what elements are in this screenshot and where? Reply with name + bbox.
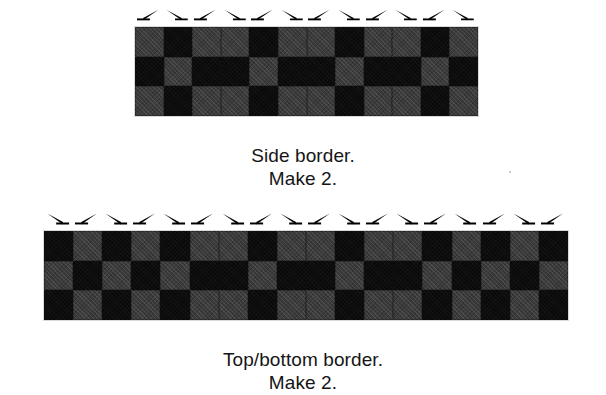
direction-arrow-left: [223, 8, 246, 22]
quilt-cell: [481, 290, 510, 320]
quilt-cell: [307, 86, 336, 116]
direction-arrow-left: [221, 212, 244, 226]
direction-arrow-right: [194, 8, 217, 22]
top-bottom-border-quilt: [43, 230, 569, 321]
quilt-cell: [392, 86, 421, 116]
quilt-cell: [306, 290, 335, 320]
quilt-cell: [421, 57, 450, 87]
direction-arrow-right: [308, 8, 331, 22]
direction-arrow-right: [541, 212, 564, 226]
quilt-cell: [221, 57, 250, 87]
direction-arrow-right: [75, 212, 98, 226]
direction-arrow-right: [483, 212, 506, 226]
quilt-cell: [421, 27, 450, 57]
direction-arrow-left: [280, 8, 303, 22]
side-border-quilt: [134, 26, 479, 117]
direction-arrow-left: [451, 8, 474, 22]
quilt-cell: [364, 231, 393, 261]
quilt-cell: [219, 231, 248, 261]
quilt-cell: [249, 57, 278, 87]
quilt-cell: [539, 290, 568, 320]
direction-arrow-left: [162, 212, 185, 226]
quilt-cell: [73, 231, 102, 261]
direction-arrow-right: [250, 212, 273, 226]
top-bottom-border-caption: Top/bottom border. Make 2.: [0, 348, 606, 394]
quilt-cell: [192, 86, 221, 116]
direction-arrow-left: [395, 212, 418, 226]
direction-arrow-right: [137, 8, 160, 22]
quilt-cell: [481, 231, 510, 261]
quilt-cell: [160, 290, 189, 320]
quilt-cell: [248, 231, 277, 261]
side-border-arrow-row: [134, 8, 477, 24]
quilt-cell: [278, 57, 307, 87]
quilt-cell: [190, 261, 219, 291]
quilt-cell: [131, 261, 160, 291]
quilt-cell: [102, 290, 131, 320]
direction-arrow-left: [46, 212, 69, 226]
side-border-caption: Side border. Make 2.: [0, 144, 606, 190]
side-border-figure: [134, 26, 477, 117]
direction-arrow-right: [366, 212, 389, 226]
direction-arrow-right: [133, 212, 156, 226]
quilt-cell: [160, 261, 189, 291]
quilt-cell: [164, 27, 193, 57]
quilt-cell: [393, 261, 422, 291]
quilt-cell: [192, 57, 221, 87]
direction-arrow-left: [337, 8, 360, 22]
direction-arrow-right: [424, 212, 447, 226]
direction-arrow-right: [308, 212, 331, 226]
quilt-cell: [449, 86, 478, 116]
direction-arrow-right: [251, 8, 274, 22]
quilt-cell: [135, 86, 164, 116]
quilt-cell: [102, 261, 131, 291]
direction-arrow-left: [279, 212, 302, 226]
quilt-cell: [278, 86, 307, 116]
quilt-cell: [278, 27, 307, 57]
quilt-cell: [73, 261, 102, 291]
quilt-cell: [452, 231, 481, 261]
direction-arrow-right: [191, 212, 214, 226]
quilt-cell: [335, 86, 364, 116]
direction-arrow-left: [453, 212, 476, 226]
quilt-cell: [335, 290, 364, 320]
quilt-cell: [44, 290, 73, 320]
direction-arrow-left: [104, 212, 127, 226]
quilt-cell: [449, 57, 478, 87]
quilt-cell: [221, 86, 250, 116]
quilt-cell: [335, 27, 364, 57]
side-border-caption-line2: Make 2.: [0, 167, 606, 190]
quilt-cell: [364, 261, 393, 291]
side-border-caption-line1: Side border.: [0, 144, 606, 167]
top-bottom-border-caption-line1: Top/bottom border.: [0, 348, 606, 371]
quilt-cell: [190, 290, 219, 320]
quilt-cell: [164, 57, 193, 87]
quilt-cell: [510, 290, 539, 320]
quilt-cell: [393, 231, 422, 261]
quilt-cell: [422, 261, 451, 291]
quilt-cell: [135, 27, 164, 57]
quilt-cell: [219, 290, 248, 320]
quilt-cell: [306, 231, 335, 261]
quilt-cell: [44, 261, 73, 291]
direction-arrow-left: [394, 8, 417, 22]
quilt-cell: [307, 27, 336, 57]
quilt-cell: [249, 86, 278, 116]
quilt-cell: [221, 27, 250, 57]
quilt-cell: [510, 261, 539, 291]
quilt-cell: [135, 57, 164, 87]
quilt-cell: [102, 231, 131, 261]
quilt-cell: [73, 290, 102, 320]
direction-arrow-left: [165, 8, 188, 22]
direction-arrow-right: [366, 8, 389, 22]
quilt-cell: [164, 86, 193, 116]
quilt-cell: [364, 57, 393, 87]
diagram-page: Side border. Make 2. Top/bottom border. …: [0, 0, 606, 395]
quilt-cell: [510, 231, 539, 261]
top-bottom-border-caption-line2: Make 2.: [0, 371, 606, 394]
top-bottom-border-figure: [43, 230, 567, 321]
quilt-cell: [452, 261, 481, 291]
quilt-cell: [131, 231, 160, 261]
quilt-cell: [335, 57, 364, 87]
direction-arrow-left: [512, 212, 535, 226]
